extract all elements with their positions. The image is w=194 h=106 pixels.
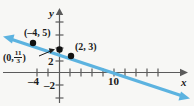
y-tick-label-2: 2: [48, 56, 54, 67]
point-label-c: (2, 3): [75, 42, 97, 52]
data-point-a: [30, 40, 36, 46]
point-label-b: (0, 11 3 ): [3, 50, 26, 65]
point-label-a: (–4, 5): [24, 28, 51, 38]
graph-canvas: [0, 0, 194, 106]
fraction-eleven-thirds: 11 3: [14, 50, 23, 65]
y-axis-label: y: [49, 8, 54, 19]
y-tick-label-neg2: –2: [44, 80, 55, 91]
fraction-denominator: 3: [15, 58, 21, 65]
data-point-b: [56, 46, 62, 52]
point-label-b-open: (0,: [3, 53, 14, 63]
coordinate-plane-figure: y x –4 10 2 –2 (–4, 5) (2, 3) (0, 11 3 ): [0, 0, 194, 106]
x-tick-label-10: 10: [108, 76, 119, 87]
x-tick-label-neg4: –4: [28, 76, 39, 87]
fraction-numerator: 11: [14, 50, 23, 57]
point-label-b-close: ): [22, 53, 25, 63]
data-point-c: [68, 53, 74, 59]
x-axis-label: x: [181, 77, 187, 88]
